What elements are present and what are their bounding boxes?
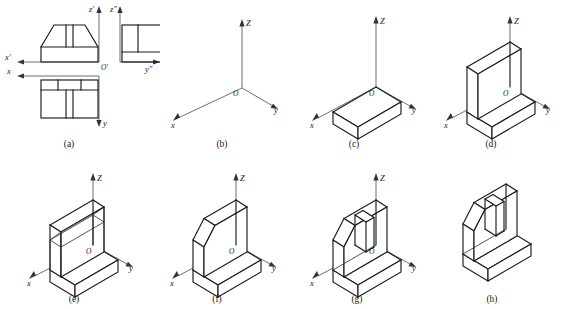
label-y-doubleprime: y" [144,64,153,74]
label-z: Z [514,16,519,26]
side-view [122,25,160,62]
label-x: x [443,120,448,130]
label-x: x [309,120,314,130]
panel-caption-h: (h) [486,294,497,305]
label-z-doubleprime: z" [109,4,117,14]
panel-e: Z y x O (e) [0,155,145,309]
label-origin: O [369,247,375,256]
label-y: y [273,105,278,115]
axis-y [96,76,101,127]
label-origin: O [233,89,239,98]
label-y: y [102,118,107,128]
label-origin: O [86,247,92,256]
panel-caption-g: (g) [351,294,362,305]
panel-a: z' z" x' y" x y O' (a) [0,0,160,155]
panel-caption-f: (f) [212,294,222,305]
front-view [41,25,98,62]
label-x: x [309,278,314,288]
panel-caption-e: (e) [69,294,80,305]
label-x: x [169,278,174,288]
panel-d: Z y x O (d) [420,0,562,155]
panel-h: (h) [420,155,562,309]
label-x: x [26,278,31,288]
label-y: y [411,263,416,273]
label-origin: O [229,247,235,256]
panel-b: Z y x O (b) [160,0,280,155]
panel-caption-d: (d) [485,139,496,150]
panel-f: Z y x O (f) [145,155,285,309]
panel-caption-a: (a) [64,139,75,150]
isometric-axes [173,19,278,121]
label-origin: O [369,89,375,98]
figure-root: z' z" x' y" x y O' (a) Z y x O (b) [0,0,562,309]
panel-caption-b: (b) [216,139,227,150]
label-z: Z [240,173,245,183]
label-z: Z [97,173,102,183]
panel-caption-c: (c) [349,139,360,150]
label-origin: O [503,89,509,98]
panel-c: Z y x O (c) [280,0,425,155]
label-z: Z [246,18,251,28]
label-y: y [128,263,133,273]
label-y: y [271,263,276,273]
label-origin-prime: O' [101,63,108,72]
label-x: x [170,120,175,130]
label-z: Z [380,16,385,26]
panel-g: Z y x O (g) [285,155,425,309]
label-y: y [545,105,550,115]
label-z-prime: z' [88,4,94,14]
label-y: y [411,105,416,115]
axis-x [17,73,99,78]
top-view [41,80,98,118]
label-z: Z [380,173,385,183]
axis-z-prime [96,6,101,62]
label-x: x [6,66,11,76]
axis-z [373,16,378,87]
label-x-prime: x' [4,52,11,62]
